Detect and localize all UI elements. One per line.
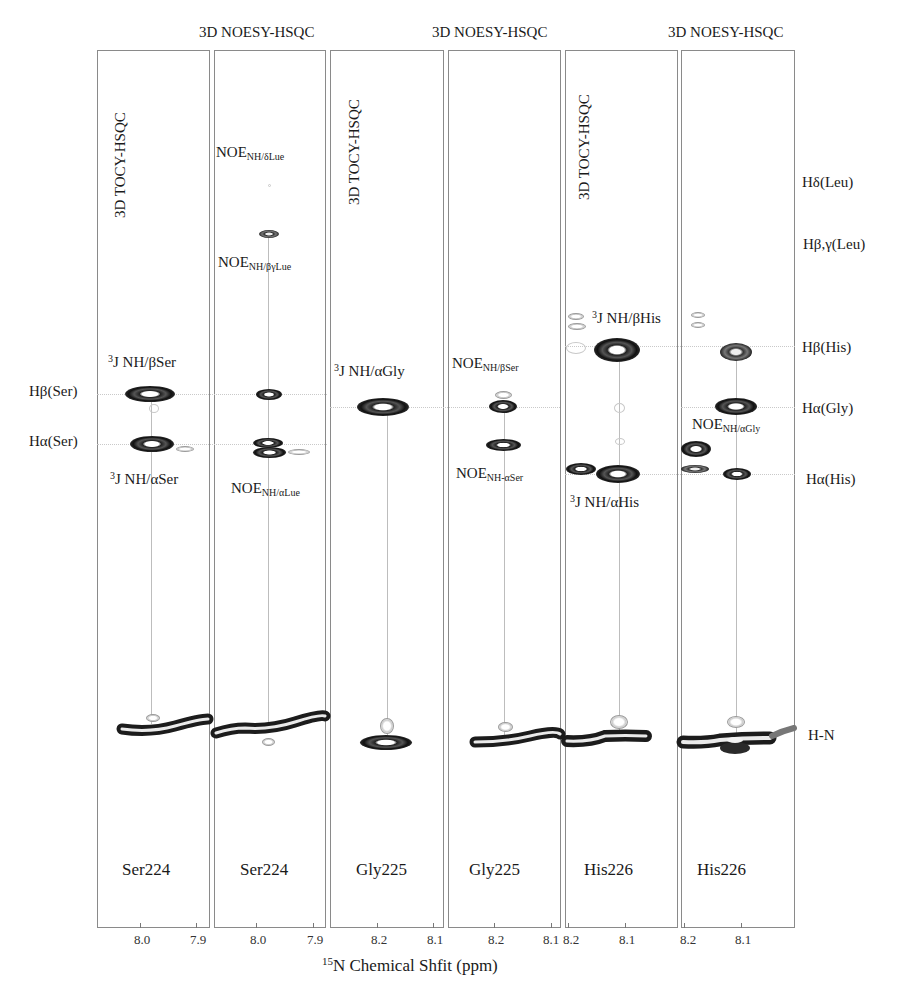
label-main: NOE	[452, 355, 483, 371]
tick-p6-1	[741, 923, 742, 928]
residue-label-p6: His226	[697, 860, 746, 880]
label-main: NOE	[456, 465, 487, 481]
x-axis-title: 15N Chemical Shfit (ppm)	[322, 955, 498, 976]
label-sub: NH/βSer	[483, 362, 519, 373]
label-main: NOE	[216, 144, 247, 160]
label-sub: NH/δLue	[247, 151, 284, 162]
tick-label-p5-1: 8.1	[619, 932, 635, 948]
tick-label-p6-0: 8.2	[680, 932, 696, 948]
peak-label-p1-alpha: 3J NH/αSer	[110, 470, 178, 488]
peak-label-p4-beta: NOENH/βSer	[452, 355, 518, 373]
tick-p2-1	[313, 923, 314, 928]
tick-p5-0	[568, 923, 569, 928]
tick-p3-0	[377, 923, 378, 928]
label-main: J NH/βSer	[113, 354, 176, 370]
tick-label-p2-1: 7.9	[307, 932, 323, 948]
label-main: NOE	[692, 416, 723, 432]
peak-label-p2-alpha: NOENH/αLue	[231, 480, 300, 498]
label-sub: NH/αGly	[723, 423, 760, 434]
peak-label-p2-betagamma: NOENH/βγLue	[218, 254, 291, 272]
label-main: NOE	[218, 254, 249, 270]
tick-p2-0	[256, 923, 257, 928]
x-axis-title-main: N Chemical Shfit (ppm)	[333, 956, 498, 975]
label-main: J NH/αSer	[115, 471, 178, 487]
residue-label-p3: Gly225	[356, 860, 407, 880]
hn-band-layer	[0, 0, 897, 1008]
tick-label-p5-0: 8.2	[563, 932, 579, 948]
peak-label-p5-alpha: 3J NH/αHis	[570, 493, 639, 511]
residue-label-p2: Ser224	[240, 860, 288, 880]
tick-label-p3-1: 8.1	[427, 932, 443, 948]
residue-label-p1: Ser224	[122, 860, 170, 880]
peak-label-p2-delta: NOENH/δLue	[216, 144, 284, 162]
tick-label-p6-1: 8.1	[735, 932, 751, 948]
label-main: J NH/αHis	[575, 494, 639, 510]
tick-p1-1	[196, 923, 197, 928]
label-main: J NH/βHis	[597, 310, 661, 326]
residue-label-p5: His226	[584, 860, 633, 880]
label-sub: NH/βγLue	[249, 261, 291, 272]
peak-label-p5-beta: 3J NH/βHis	[592, 309, 661, 327]
tick-p4-1	[551, 923, 552, 928]
tick-p5-1	[625, 923, 626, 928]
tick-label-p1-0: 8.0	[134, 932, 150, 948]
tick-p3-1	[433, 923, 434, 928]
label-main: J NH/αGly	[339, 363, 405, 379]
label-main: NOE	[231, 480, 262, 496]
tick-label-p2-0: 8.0	[250, 932, 266, 948]
residue-label-p4: Gly225	[469, 860, 520, 880]
peak-label-p3-alpha: 3J NH/αGly	[334, 362, 405, 380]
tick-label-p4-0: 8.2	[488, 932, 504, 948]
tick-label-p4-1: 8.1	[543, 932, 559, 948]
tick-p4-0	[494, 923, 495, 928]
label-sub: NH-αSer	[487, 472, 523, 483]
x-axis-title-sup: 15	[322, 955, 333, 967]
peak-label-p6-alpha: NOENH/αGly	[692, 416, 760, 434]
tick-p6-0	[684, 923, 685, 928]
peak-label-p4-alpha: NOENH-αSer	[456, 465, 523, 483]
tick-label-p1-1: 7.9	[190, 932, 206, 948]
tick-label-p3-0: 8.2	[371, 932, 387, 948]
label-sub: NH/αLue	[262, 487, 300, 498]
tick-p1-0	[140, 923, 141, 928]
peak-label-p1-beta: 3J NH/βSer	[108, 353, 176, 371]
